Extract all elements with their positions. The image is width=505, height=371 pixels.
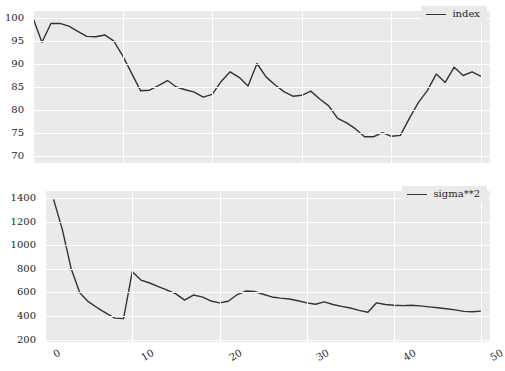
gridline-vertical: [33, 11, 34, 163]
y-tick-label: 400: [17, 311, 36, 321]
gridline-vertical: [220, 191, 221, 342]
y-tick-label: 85: [11, 82, 24, 92]
x-tick-label: 50: [489, 348, 505, 363]
series-sigma-squared-svg: [45, 191, 490, 342]
legend-label-sigma-squared: sigma**2: [433, 189, 480, 199]
series-index-line: [33, 18, 481, 137]
x-axis-sigma-squared: 01020304050: [45, 344, 490, 370]
series-sigma-squared-line: [54, 200, 482, 319]
x-tick-label: 20: [227, 348, 243, 363]
gridline-vertical: [132, 191, 133, 342]
gridline-horizontal: [33, 64, 490, 65]
gridline-horizontal: [45, 292, 490, 293]
y-tick-label: 95: [11, 36, 24, 46]
legend-line-icon: [426, 14, 446, 15]
gridline-vertical: [302, 11, 303, 163]
gridline-vertical: [212, 11, 213, 163]
y-tick-label: 80: [11, 105, 24, 115]
plot-area-index: [33, 11, 490, 163]
gridline-vertical: [391, 11, 392, 163]
x-tick-label: 30: [314, 348, 330, 363]
gridline-vertical: [45, 191, 46, 342]
y-tick-label: 75: [11, 128, 24, 138]
y-axis-index: 707580859095100: [0, 11, 29, 163]
legend-sigma-squared: sigma**2: [402, 186, 487, 202]
gridline-vertical: [307, 191, 308, 342]
axes-sigma-squared: 200400600800100012001400 01020304050 sig…: [0, 180, 493, 371]
gridline-horizontal: [33, 133, 490, 134]
y-axis-sigma-squared: 200400600800100012001400: [0, 191, 41, 342]
gridline-horizontal: [45, 245, 490, 246]
gridline-horizontal: [33, 156, 490, 157]
x-tick-label: 0: [52, 348, 63, 360]
gridline-horizontal: [33, 41, 490, 42]
axes-index: 707580859095100 index: [0, 0, 493, 180]
legend-line-icon: [407, 194, 427, 195]
gridline-vertical: [481, 191, 482, 342]
x-tick-label: 40: [402, 348, 418, 363]
y-tick-label: 90: [11, 59, 24, 69]
y-tick-label: 70: [11, 151, 24, 161]
x-tick-label: 10: [140, 348, 156, 363]
y-tick-label: 200: [17, 335, 36, 345]
gridline-vertical: [123, 11, 124, 163]
y-tick-label: 1200: [11, 217, 36, 227]
gridline-horizontal: [45, 222, 490, 223]
y-tick-label: 1000: [11, 240, 36, 250]
legend-label-index: index: [452, 9, 480, 19]
gridline-horizontal: [45, 269, 490, 270]
y-tick-label: 800: [17, 264, 36, 274]
plot-area-sigma-squared: [45, 191, 490, 342]
y-tick-label: 600: [17, 287, 36, 297]
gridline-vertical: [394, 191, 395, 342]
legend-index: index: [421, 6, 487, 22]
gridline-horizontal: [45, 316, 490, 317]
gridline-vertical: [481, 11, 482, 163]
gridline-horizontal: [33, 87, 490, 88]
gridline-horizontal: [45, 340, 490, 341]
y-tick-label: 100: [5, 13, 24, 23]
y-tick-label: 1400: [11, 193, 36, 203]
gridline-horizontal: [33, 110, 490, 111]
